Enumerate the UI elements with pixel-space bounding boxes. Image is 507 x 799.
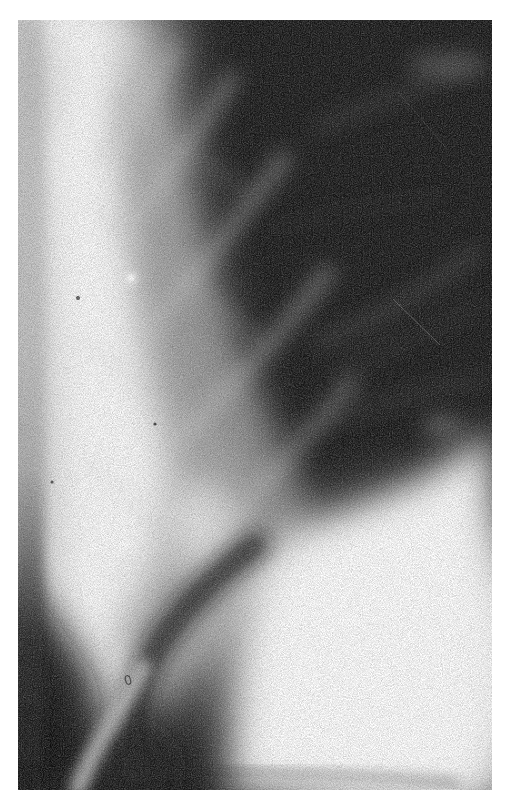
radiograph-rendering bbox=[18, 20, 492, 790]
radiograph-film bbox=[18, 20, 492, 790]
film-grain bbox=[18, 20, 492, 790]
page-background bbox=[0, 0, 507, 799]
